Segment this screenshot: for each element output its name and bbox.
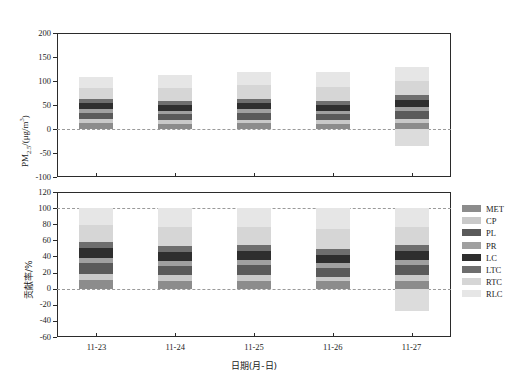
bar-segment-MET-11-24	[158, 281, 192, 289]
xtick-pm25-panel-11-26	[333, 173, 334, 177]
ytick-label-pm25-panel-100: 100	[17, 77, 51, 86]
bar-segment-RLC-11-25	[237, 72, 271, 85]
xtick-pm25-panel-11-23	[96, 173, 97, 177]
bar-segment-RLC-11-27	[395, 208, 429, 227]
bar-segment-RTC-11-24	[158, 227, 192, 246]
ytick-pm25-panel-200	[53, 33, 57, 34]
bar-segment-RTC-11-23	[79, 225, 113, 242]
ytick-label-contribution-panel--40: -40	[17, 316, 51, 325]
bar-segment-LC-11-25	[237, 103, 271, 109]
legend-swatch-LTC	[462, 266, 481, 273]
bar-segment-MET-11-23	[79, 280, 113, 289]
bar-contribution-panel-11-23	[79, 208, 113, 289]
ytick-contribution-panel--60	[53, 337, 57, 338]
bar-segment-RLC-11-23	[79, 208, 113, 225]
xtick-label-11-24: 11-24	[145, 343, 205, 352]
reference-line-pm25-panel-0	[57, 129, 451, 130]
xtick-contribution-panel-11-24	[175, 333, 176, 337]
ytick-contribution-panel-60	[53, 240, 57, 241]
bar-segment-LC-11-27	[395, 251, 429, 260]
xtick-pm25-panel-11-27	[412, 173, 413, 177]
reference-line-contribution-panel-0	[57, 289, 451, 290]
legend-label-MET: MET	[486, 204, 504, 214]
bar-pm25-panel-11-23	[79, 77, 113, 129]
ytick-pm25-panel--50	[53, 153, 57, 154]
legend-label-CP: CP	[486, 216, 496, 226]
bar-segment-PL-11-25	[237, 113, 271, 120]
legend-label-LC: LC	[486, 253, 497, 263]
bar-segment-LC-11-26	[316, 255, 350, 263]
ytick-contribution-panel-0	[53, 289, 57, 290]
bar-segment-PL-11-24	[158, 266, 192, 276]
bar-segment-RTC-11-23	[79, 88, 113, 99]
bar-segment-MET-11-26	[316, 281, 350, 288]
bar-segment-MET-11-26	[316, 124, 350, 129]
x-axis-title: 日期(月-日)	[57, 359, 451, 372]
ytick-label-contribution-panel-60: 60	[17, 236, 51, 245]
xtick-contribution-panel-11-25	[254, 333, 255, 337]
bar-segment-RTC-11-25	[237, 227, 271, 246]
legend-label-PR: PR	[486, 241, 496, 251]
bar-segment-PL-11-27	[395, 265, 429, 275]
y-axis-title-pm25: PM2.5/(μg/m3)	[18, 115, 32, 167]
xtick-label-11-26: 11-26	[303, 343, 363, 352]
ytick-pm25-panel-50	[53, 105, 57, 106]
y-axis-title-contribution: 贡献率/%	[22, 260, 35, 299]
ytick-contribution-panel-20	[53, 273, 57, 274]
bar-pm25-panel-11-26	[316, 72, 350, 129]
xtick-label-11-27: 11-27	[382, 343, 442, 352]
ytick-pm25-panel-0	[53, 129, 57, 130]
legend-swatch-CP	[462, 217, 481, 224]
xtick-pm25-panel-11-24	[175, 173, 176, 177]
ytick-contribution-panel--40	[53, 321, 57, 322]
ytick-contribution-panel-80	[53, 224, 57, 225]
bar-segment-RTC-11-25	[237, 85, 271, 98]
bar-segment-LC-11-27	[395, 100, 429, 107]
ytick-contribution-panel-40	[53, 256, 57, 257]
legend-label-LTC: LTC	[486, 265, 501, 275]
legend-swatch-RLC	[462, 290, 481, 297]
bar-segment-MET-11-27	[395, 281, 429, 289]
bar-segment-PL-11-27	[395, 111, 429, 119]
ytick-label-contribution-panel-120: 120	[17, 188, 51, 197]
legend-label-RLC: RLC	[486, 289, 503, 299]
ytick-contribution-panel-100	[53, 208, 57, 209]
ytick-label-contribution-panel-40: 40	[17, 252, 51, 261]
bar-segment-RTC-11-26	[316, 229, 350, 249]
bar-segment-PL-11-24	[158, 114, 192, 120]
ytick-pm25-panel-100	[53, 81, 57, 82]
bar-contribution-panel-11-24	[158, 208, 192, 289]
ytick-pm25-panel-150	[53, 57, 57, 58]
bar-contribution-panel-11-25	[237, 208, 271, 289]
bar-contribution-panel-11-26	[316, 208, 350, 289]
xtick-contribution-panel-11-27	[412, 333, 413, 337]
bar-segment-RLC-11-24	[158, 208, 192, 227]
legend-swatch-MET	[462, 205, 481, 212]
bar-segment-RLC-11-25	[237, 208, 271, 227]
bar-segment-MET-11-25	[237, 123, 271, 129]
bar-contribution-panel-11-27	[395, 208, 429, 311]
bar-segment-MET-11-24	[158, 124, 192, 129]
bar-segment-RTC-11-27	[395, 81, 429, 95]
legend-swatch-RTC	[462, 278, 481, 285]
bar-segment-LC-11-24	[158, 252, 192, 261]
ytick-contribution-panel-120	[53, 192, 57, 193]
bar-pm25-panel-11-27	[395, 67, 429, 146]
ytick-contribution-panel--20	[53, 305, 57, 306]
xtick-label-11-23: 11-23	[66, 343, 126, 352]
bar-segment-RLC-neg-11-27	[395, 289, 429, 312]
xtick-pm25-panel-11-25	[254, 173, 255, 177]
legend-label-PL: PL	[486, 228, 496, 238]
ytick-label-contribution-panel-100: 100	[17, 204, 51, 213]
bar-segment-LC-11-25	[237, 251, 271, 260]
ytick-label-pm25-panel-150: 150	[17, 53, 51, 62]
ytick-label-contribution-panel-80: 80	[17, 220, 51, 229]
xtick-label-11-25: 11-25	[224, 343, 284, 352]
bar-segment-RLC-11-26	[316, 208, 350, 229]
bar-segment-MET-11-23	[79, 123, 113, 129]
bar-segment-PL-11-23	[79, 113, 113, 120]
bar-segment-PL-11-25	[237, 265, 271, 275]
legend-swatch-PR	[462, 242, 481, 249]
bar-pm25-panel-11-25	[237, 72, 271, 129]
legend-swatch-LC	[462, 254, 481, 261]
